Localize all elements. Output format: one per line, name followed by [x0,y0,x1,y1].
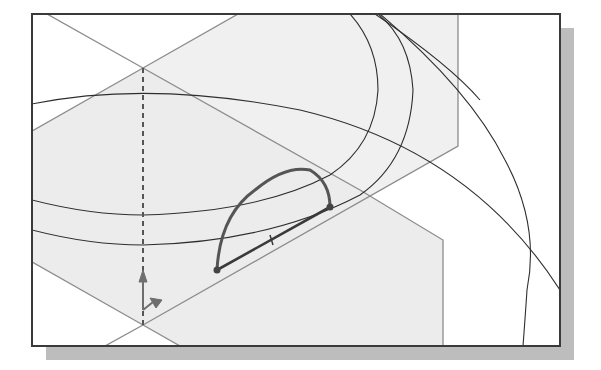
profile-endpoint-b [327,204,334,211]
cad-viewport[interactable] [0,0,601,370]
profile-endpoint-a [214,267,221,274]
